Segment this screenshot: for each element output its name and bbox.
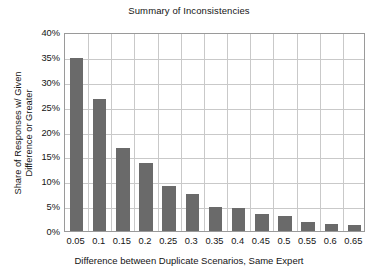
bar xyxy=(116,148,129,231)
y-axis-tick-label: 20% xyxy=(20,128,60,138)
bar xyxy=(325,224,338,231)
bar xyxy=(70,58,83,231)
y-axis-tick-label: 35% xyxy=(20,53,60,63)
bar xyxy=(186,194,199,231)
bar xyxy=(348,225,361,231)
x-axis-tick-label: 0.6 xyxy=(319,236,342,246)
plot-area xyxy=(64,33,365,232)
bar-series xyxy=(65,34,364,231)
x-axis-tick-label: 0.5 xyxy=(272,236,295,246)
x-axis-tick-label: 0.65 xyxy=(342,236,365,246)
bar xyxy=(162,186,175,231)
x-axis-tick-label: 0.15 xyxy=(110,236,133,246)
x-axis-tick-label: 0.05 xyxy=(64,236,87,246)
x-axis-tick-label: 0.35 xyxy=(203,236,226,246)
bar xyxy=(301,222,314,231)
x-axis-tick-label: 0.1 xyxy=(87,236,110,246)
chart-container: Summary of Inconsistencies Share of Resp… xyxy=(0,0,378,280)
x-axis-tick-label: 0.25 xyxy=(157,236,180,246)
y-axis-tick-label: 30% xyxy=(20,78,60,88)
y-axis-tick-label: 40% xyxy=(20,28,60,38)
y-axis-tick-label: 15% xyxy=(20,152,60,162)
bar xyxy=(278,216,291,231)
bar xyxy=(93,99,106,231)
chart-title: Summary of Inconsistencies xyxy=(0,5,378,16)
x-axis-tick-label: 0.45 xyxy=(249,236,272,246)
y-axis-tick-label: 10% xyxy=(20,177,60,187)
y-axis-tick-label: 25% xyxy=(20,103,60,113)
x-axis-tick-label: 0.55 xyxy=(296,236,319,246)
x-axis-tick-label: 0.2 xyxy=(133,236,156,246)
bar xyxy=(255,214,268,231)
x-axis-label: Difference between Duplicate Scenarios, … xyxy=(0,255,378,266)
y-axis-tick-label: 5% xyxy=(20,202,60,212)
bar xyxy=(139,163,152,231)
bar xyxy=(232,208,245,231)
x-axis-tick-label: 0.3 xyxy=(180,236,203,246)
bar xyxy=(209,207,222,231)
y-axis-tick-label: 0% xyxy=(20,227,60,237)
x-axis-tick-label: 0.4 xyxy=(226,236,249,246)
